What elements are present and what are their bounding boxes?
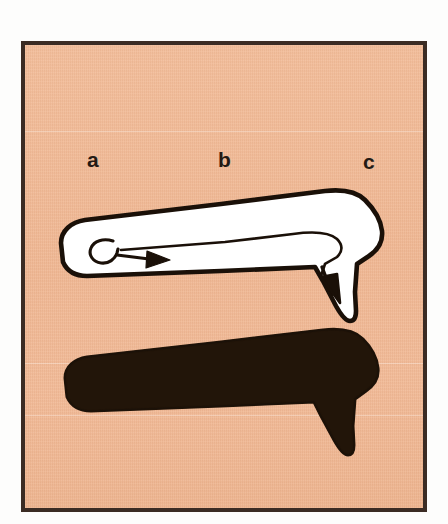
figure-plate: a b c (21, 41, 427, 512)
outlined-arrow (61, 190, 382, 321)
solid-silhouette-arrow (65, 329, 378, 455)
figure-root: a b c (0, 0, 448, 524)
outlined-arrow-body (61, 190, 382, 321)
diagram-artwork (25, 45, 423, 508)
